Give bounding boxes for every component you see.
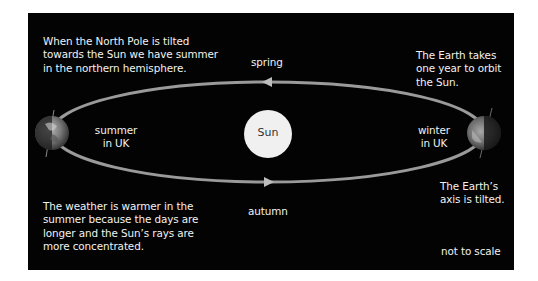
weather-note-line: summer because the days are xyxy=(43,213,198,226)
weather-note: The weather is warmer in the summer beca… xyxy=(43,200,198,254)
weather-note-line: more concentrated. xyxy=(43,240,198,253)
autumn-label: autumn xyxy=(248,205,288,218)
weather-note-line: The weather is warmer in the xyxy=(43,200,198,213)
summer-label: summer in UK xyxy=(90,124,142,151)
north-pole-note: When the North Pole is tilted towards th… xyxy=(43,35,218,75)
north-pole-note-line: towards the Sun we have summer xyxy=(43,48,218,61)
summer-label-line2: in UK xyxy=(90,137,142,150)
scale-note: not to scale xyxy=(441,245,501,258)
spring-arrow-icon xyxy=(262,77,272,87)
north-pole-note-line: in the northern hemisphere. xyxy=(43,62,218,75)
orbit-year-note: The Earth takes one year to orbit the Su… xyxy=(416,49,501,89)
axis-note: The Earth’s axis is tilted. xyxy=(440,180,504,207)
winter-label-line2: in UK xyxy=(410,137,458,150)
summer-label-line1: summer xyxy=(90,124,142,137)
winter-label: winter in UK xyxy=(410,124,458,151)
sun-label: Sun xyxy=(244,126,292,139)
weather-note-line: longer and the Sun’s rays are xyxy=(43,227,198,240)
autumn-arrow-icon xyxy=(264,177,274,187)
winter-label-line1: winter xyxy=(410,124,458,137)
orbit-year-note-line: The Earth takes xyxy=(416,49,501,62)
axis-note-line: The Earth’s xyxy=(440,180,504,193)
spring-label: spring xyxy=(251,56,283,69)
north-pole-note-line: When the North Pole is tilted xyxy=(43,35,218,48)
orbit-year-note-line: one year to orbit xyxy=(416,62,501,75)
orbit-year-note-line: the Sun. xyxy=(416,76,501,89)
axis-note-line: axis is tilted. xyxy=(440,193,504,206)
